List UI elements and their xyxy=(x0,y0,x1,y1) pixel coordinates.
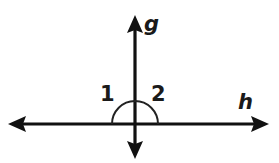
figure-canvas xyxy=(0,0,279,163)
angle-label-2: 2 xyxy=(151,84,166,105)
line-label-h: h xyxy=(238,92,253,113)
line-label-g: g xyxy=(144,14,159,35)
angle-label-1: 1 xyxy=(100,84,115,105)
geometry-figure: g h 1 2 xyxy=(0,0,279,163)
